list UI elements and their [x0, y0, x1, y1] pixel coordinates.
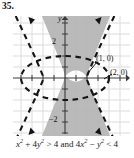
- caption-minus: −: [87, 139, 97, 149]
- figure-35: 35.: [0, 0, 134, 158]
- caption-and: and: [58, 139, 76, 149]
- point-1-0-label: (1, 0): [96, 54, 113, 63]
- caption-rel2: < 4: [104, 139, 118, 149]
- caption-expr2: 4x2 − y2 < 4: [76, 139, 118, 149]
- point-2-0-label: (2, 0): [110, 68, 127, 77]
- solution-region-lower: [42, 76, 110, 137]
- problem-number: 35.: [2, 1, 14, 11]
- y-axis-tick-label-2: 2: [52, 37, 56, 46]
- caption-rel1: > 4: [44, 139, 58, 149]
- caption-plus: + 4: [23, 139, 37, 149]
- caption-expr1: x2 + 4y2 > 4: [16, 139, 58, 149]
- y-axis-tick-label-neg2: −2: [49, 115, 58, 124]
- inequality-caption: x2 + 4y2 > 4 and 4x2 − y2 < 4: [0, 139, 134, 149]
- y-axis-label: y: [58, 14, 62, 23]
